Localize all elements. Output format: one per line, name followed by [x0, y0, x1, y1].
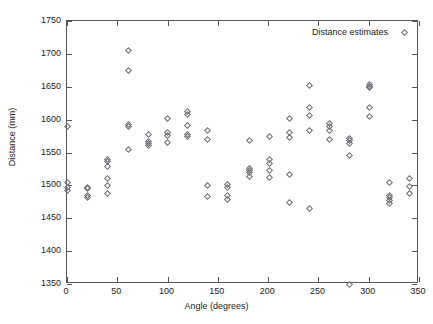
data-point [224, 196, 231, 203]
data-point [306, 112, 313, 119]
y-tick-mark [67, 251, 72, 252]
legend-diamond-icon [401, 28, 408, 35]
x-tick-mark [67, 277, 68, 282]
data-point [306, 205, 313, 212]
x-tick-mark [369, 21, 370, 26]
plot-area: Distance estimates [66, 20, 418, 283]
data-point [386, 200, 393, 207]
x-tick-mark [168, 277, 169, 282]
y-tick-label: 1350 [15, 279, 61, 288]
x-tick-mark [268, 21, 269, 26]
data-point [306, 127, 313, 134]
data-point [286, 134, 293, 141]
x-tick-mark [117, 21, 118, 26]
x-tick-mark [268, 277, 269, 282]
x-tick-label: 300 [360, 287, 375, 296]
y-tick-label: 1400 [15, 246, 61, 255]
data-point [104, 163, 111, 170]
data-point [104, 182, 111, 189]
data-point [346, 280, 353, 287]
data-point [266, 174, 273, 181]
data-point [346, 152, 353, 159]
data-point [204, 127, 211, 134]
y-tick-mark [67, 153, 72, 154]
x-tick-label: 200 [260, 287, 275, 296]
data-point [125, 146, 132, 153]
data-point [164, 115, 171, 122]
legend-label: Distance estimates [312, 27, 388, 37]
x-tick-mark [369, 277, 370, 282]
y-tick-mark [67, 54, 72, 55]
y-tick-mark [412, 54, 417, 55]
x-tick-mark [419, 277, 420, 282]
y-tick-mark [67, 120, 72, 121]
data-point [63, 187, 70, 194]
y-tick-mark [412, 218, 417, 219]
data-point [386, 179, 393, 186]
y-tick-label: 1550 [15, 147, 61, 156]
x-tick-label: 50 [111, 287, 121, 296]
data-point [306, 104, 313, 111]
x-tick-label: 350 [410, 287, 425, 296]
y-tick-mark [67, 284, 72, 285]
data-point [406, 175, 413, 182]
y-tick-mark [67, 218, 72, 219]
y-tick-mark [412, 21, 417, 22]
data-point [63, 123, 70, 130]
data-point [245, 137, 252, 144]
data-point [406, 190, 413, 197]
y-tick-mark [412, 251, 417, 252]
y-tick-mark [412, 120, 417, 121]
data-point [184, 122, 191, 129]
x-tick-mark [218, 21, 219, 26]
x-tick-mark [117, 277, 118, 282]
data-point [286, 171, 293, 178]
x-tick-label: 150 [209, 287, 224, 296]
y-tick-label: 1750 [15, 16, 61, 25]
y-tick-label: 1700 [15, 48, 61, 57]
data-point [326, 127, 333, 134]
data-point [204, 182, 211, 189]
data-point [204, 193, 211, 200]
y-tick-mark [67, 87, 72, 88]
data-point [104, 190, 111, 197]
data-point [286, 115, 293, 122]
x-tick-mark [318, 21, 319, 26]
x-tick-label: 0 [63, 287, 68, 296]
data-point [406, 182, 413, 189]
y-tick-label: 1500 [15, 180, 61, 189]
y-tick-label: 1600 [15, 114, 61, 123]
data-point [326, 136, 333, 143]
data-point [366, 104, 373, 111]
x-tick-mark [318, 277, 319, 282]
y-tick-label: 1650 [15, 81, 61, 90]
data-point [266, 133, 273, 140]
y-tick-label: 1450 [15, 213, 61, 222]
data-point [204, 136, 211, 143]
data-point [145, 142, 152, 149]
data-point [104, 175, 111, 182]
data-point [164, 139, 171, 146]
x-tick-mark [419, 21, 420, 26]
legend: Distance estimates [312, 27, 407, 37]
x-tick-label: 100 [159, 287, 174, 296]
x-tick-mark [168, 21, 169, 26]
scatter-plot-figure: Distance (mm) Angle (degrees) Distance e… [0, 0, 433, 324]
data-point [366, 113, 373, 120]
x-axis-title: Angle (degrees) [0, 301, 433, 311]
data-point [286, 199, 293, 206]
y-tick-mark [412, 153, 417, 154]
y-tick-mark [412, 284, 417, 285]
x-tick-label: 250 [310, 287, 325, 296]
data-point [125, 47, 132, 54]
x-tick-mark [218, 277, 219, 282]
data-point [125, 67, 132, 74]
data-point [306, 82, 313, 89]
x-tick-mark [67, 21, 68, 26]
y-tick-mark [412, 87, 417, 88]
data-point [84, 194, 91, 201]
